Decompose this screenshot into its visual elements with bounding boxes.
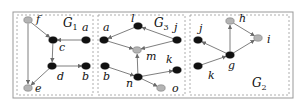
edge-b-to-n: [108, 67, 134, 76]
node-label-k: k: [166, 53, 173, 66]
node-label-a: a: [103, 21, 110, 34]
edge-l-to-a: [108, 27, 135, 38]
node-m: [133, 47, 141, 53]
node-label-a: a: [82, 21, 89, 34]
node-l: [134, 23, 142, 29]
graph-panels-figure: fcadbeG1aljmbnkoG3hijgkG2: [0, 0, 304, 107]
node-label-i: i: [267, 33, 271, 46]
node-h: [226, 18, 234, 24]
node-j: [194, 37, 202, 43]
node-f: [24, 17, 32, 23]
panel-g1: fcadbeG1: [17, 13, 93, 95]
node-o: [157, 85, 165, 91]
node-e: [24, 85, 32, 91]
node-label-j: j: [171, 21, 178, 34]
node-b: [101, 63, 109, 69]
node-d: [48, 63, 56, 69]
panel-title-g2: G2: [252, 76, 267, 92]
node-label-n: n: [126, 77, 133, 90]
node-j: [173, 37, 181, 43]
node-label-l: l: [131, 12, 135, 25]
edge-n-to-k: [142, 71, 173, 77]
graph-panels: fcadbeG1aljmbnkoG3hijgkG2: [17, 12, 289, 95]
panel-title-g3: G3: [154, 16, 169, 32]
edge-g-to-j: [202, 42, 227, 54]
node-label-m: m: [146, 50, 156, 63]
edge-a-to-m: [107, 41, 133, 49]
node-label-e: e: [35, 82, 42, 95]
edge-f-to-c: [31, 22, 50, 37]
node-a: [100, 37, 108, 43]
edge-n-to-m: [137, 54, 138, 73]
node-c: [49, 37, 57, 43]
node-label-c: c: [59, 41, 65, 54]
node-n: [134, 74, 142, 80]
edge-j-to-m: [141, 41, 174, 49]
node-label-j: j: [196, 22, 203, 35]
node-g: [226, 52, 234, 58]
edge-k-to-g: [201, 56, 226, 64]
panel-title-g1: G1: [63, 16, 78, 32]
node-b: [82, 63, 90, 69]
node-i: [254, 35, 262, 41]
node-label-b: b: [103, 70, 110, 83]
edge-c-to-d: [52, 44, 53, 62]
node-label-o: o: [172, 82, 179, 95]
panel-g2: hijgkG2: [190, 12, 289, 95]
node-label-b: b: [82, 70, 89, 83]
node-k: [173, 67, 181, 73]
edge-n-to-o: [141, 79, 157, 87]
node-label-d: d: [57, 70, 64, 83]
panel-g3: aljmbnkoG3: [98, 12, 185, 95]
edge-g-to-i: [233, 40, 254, 53]
node-label-h: h: [239, 12, 246, 25]
node-k: [194, 63, 202, 69]
node-label-k: k: [208, 69, 215, 82]
node-a: [82, 37, 90, 43]
node-label-g: g: [228, 59, 235, 72]
node-label-f: f: [35, 13, 42, 26]
